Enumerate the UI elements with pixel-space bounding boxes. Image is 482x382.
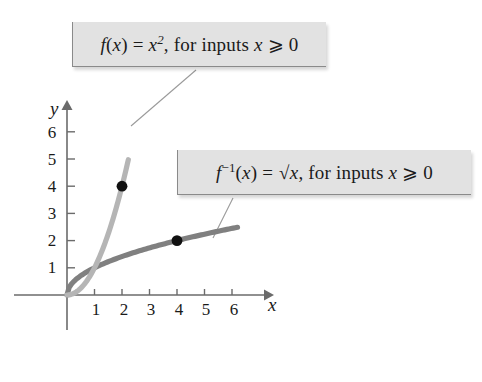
y-tick-label-3: 3 [42,204,62,224]
x-tick-label-1: 1 [86,300,106,320]
x-tick-label-5: 5 [196,300,216,320]
callout-sqrt-text: f−1(x) = √x, for inputs x ⩾ 0 [216,161,433,184]
y-tick-label-6: 6 [42,123,62,143]
parabola-curve [67,160,128,295]
sqrt-curve [67,227,238,295]
y-axis-ticks [67,132,75,268]
callout-square-function: f(x) = x2, for inputs x ⩾ 0 [72,22,326,67]
point-marker-4-2 [172,235,183,246]
x-tick-label-2: 2 [114,300,134,320]
function-inverse-graph: y x 123456123456 f(x) = x2, for inputs x… [0,0,482,382]
callout-square-text: f(x) = x2, for inputs x ⩾ 0 [101,33,299,56]
x-axis-label: x [268,294,276,316]
x-tick-label-3: 3 [141,300,161,320]
point-marker-2-4 [117,181,128,192]
leader-line-square [131,70,196,126]
y-tick-label-5: 5 [42,150,62,170]
x-tick-label-6: 6 [224,300,244,320]
callout-sqrt-function: f−1(x) = √x, for inputs x ⩾ 0 [177,150,471,195]
y-tick-label-1: 1 [42,258,62,278]
y-tick-label-4: 4 [42,177,62,197]
x-tick-label-4: 4 [169,300,189,320]
y-axis-arrowhead [62,100,73,110]
y-tick-label-2: 2 [42,231,62,251]
y-axis-label: y [50,98,58,120]
x-axis-ticks [95,289,233,295]
